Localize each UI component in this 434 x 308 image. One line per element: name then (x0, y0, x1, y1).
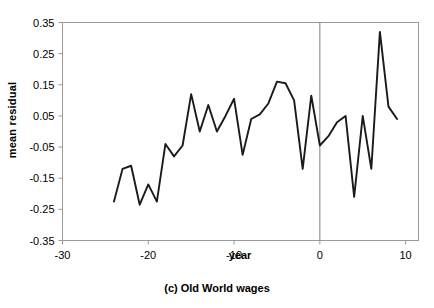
y-axis-tick-label: 0.15 (33, 79, 54, 91)
x-axis-title: year (229, 249, 252, 261)
x-axis-tick-label: 10 (400, 249, 412, 261)
y-axis-tick-label: -0.35 (29, 235, 54, 247)
y-axis-tick-group: -0.35-0.25-0.15-0.050.050.150.250.35 (29, 17, 62, 247)
x-axis-tick-label: -20 (140, 249, 156, 261)
line-chart-svg: -0.35-0.25-0.15-0.050.050.150.250.35 -30… (0, 0, 434, 262)
x-axis-tick-label: -30 (55, 249, 71, 261)
chart-figure: mean residual -0.35-0.25-0.15-0.050.050.… (0, 0, 434, 308)
figure-caption: (c) Old World wages (0, 282, 434, 294)
y-axis-tick-label: 0.35 (33, 17, 54, 29)
y-axis-tick-label: -0.25 (29, 203, 54, 215)
plot-area-wrapper: -0.35-0.25-0.15-0.050.050.150.250.35 -30… (0, 0, 434, 262)
y-axis-tick-label: -0.05 (29, 141, 54, 153)
y-axis-tick-label: 0.05 (33, 110, 54, 122)
y-axis-tick-label: -0.15 (29, 172, 54, 184)
y-axis-tick-label: 0.25 (33, 48, 54, 60)
x-axis-tick-label: 0 (317, 249, 323, 261)
